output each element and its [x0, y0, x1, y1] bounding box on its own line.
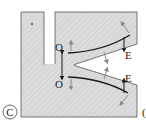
panel-label: C [6, 106, 13, 118]
label-end-bottom: E [125, 72, 132, 84]
label-end-top: E [125, 49, 132, 61]
next-panel-partial: ( [142, 106, 146, 119]
diagram-canvas: O O E E C ( [0, 0, 146, 133]
dot-marker [31, 23, 33, 25]
label-origin-bottom: O [55, 78, 63, 90]
label-origin-top: O [55, 41, 63, 53]
